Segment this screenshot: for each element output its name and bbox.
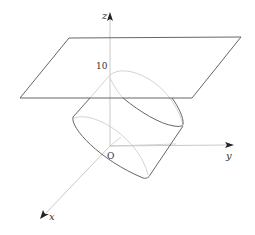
x-axis: [45, 146, 110, 214]
origin-label: O: [107, 152, 114, 161]
axes: [40, 12, 234, 219]
z-axis-label: z: [102, 11, 107, 21]
x-axis-label: x: [49, 212, 55, 222]
diagram-canvas: z 10 O y x: [0, 0, 255, 235]
cylinder-hidden-lines: [74, 71, 183, 175]
inclined-plane: [20, 37, 241, 98]
y-axis-label: y: [226, 151, 232, 161]
cylinder-visible-lines: [73, 98, 183, 178]
diagram-svg: [0, 0, 255, 235]
height-label: 10: [96, 62, 107, 71]
